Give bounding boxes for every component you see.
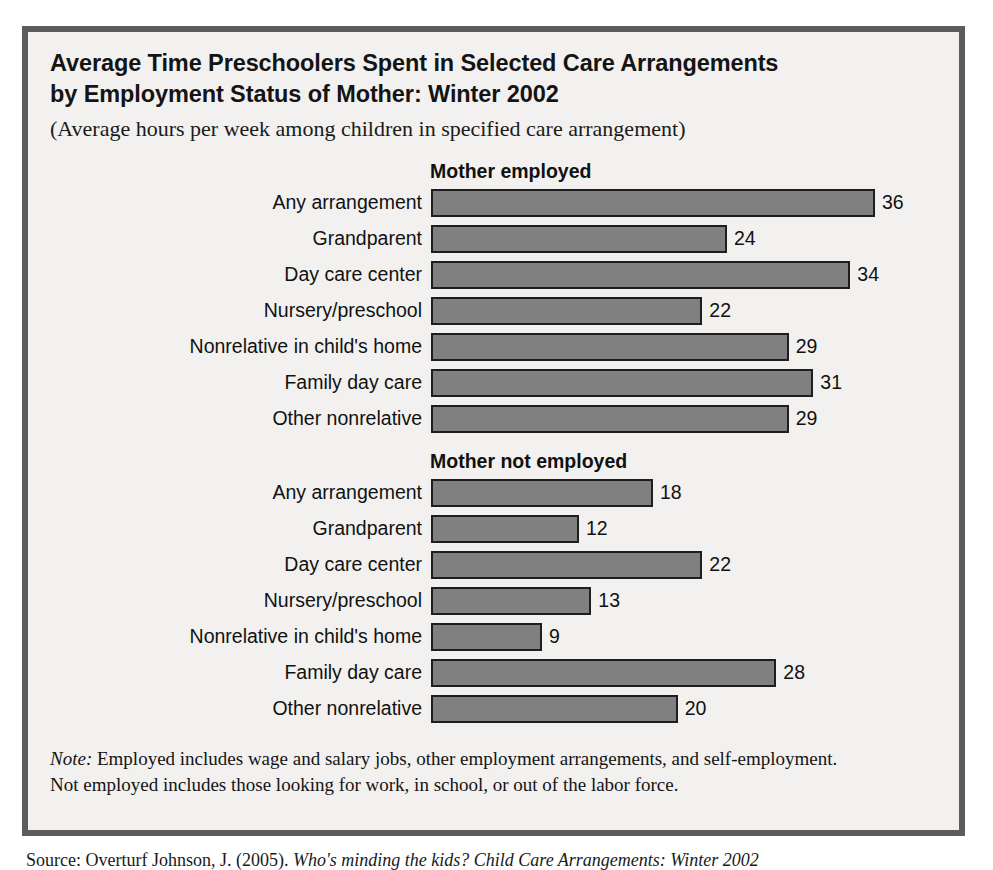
bar-value-label: 28 [783,663,805,683]
bar-value-label: 13 [598,591,620,611]
bar [431,551,702,579]
bar-value-label: 29 [796,337,818,357]
source-label: Source: Overturf Johnson, J. (2005). [26,850,293,870]
bar-row: Any arrangement18 [50,475,937,511]
bar-value-label: 20 [685,699,707,719]
source-caption: Source: Overturf Johnson, J. (2005). Who… [26,849,966,870]
bar-value-label: 34 [857,265,879,285]
bar-value-label: 24 [734,229,756,249]
bar [431,659,776,687]
bar-row: Other nonrelative29 [50,401,937,437]
bar [431,587,591,615]
bar-category-label: Nonrelative in child's home [50,627,431,647]
bar-row: Nonrelative in child's home9 [50,619,937,655]
chart-plot-area: Mother employedAny arrangement36Grandpar… [50,158,937,727]
bar-row: Family day care28 [50,655,937,691]
bar-category-label: Nonrelative in child's home [50,337,431,357]
note-label: Note: [50,748,92,769]
bar-track: 12 [431,511,937,547]
group-heading-1: Mother not employed [50,448,937,475]
chart-title: Average Time Preschoolers Spent in Selec… [50,48,937,110]
bar [431,479,653,507]
chart-title-line-1: Average Time Preschoolers Spent in Selec… [50,48,937,79]
bar [431,333,789,361]
bar-value-label: 31 [820,373,842,393]
bar-value-label: 12 [586,519,608,539]
bar-track: 22 [431,293,937,329]
bar-category-label: Day care center [50,555,431,575]
bar [431,369,813,397]
bar [431,623,542,651]
bar-track: 9 [431,619,937,655]
bar-value-label: 9 [549,627,560,647]
bar-row: Other nonrelative20 [50,691,937,727]
bar [431,261,850,289]
bar-track: 31 [431,365,937,401]
bar-row: Nonrelative in child's home29 [50,329,937,365]
bar-track: 18 [431,475,937,511]
bar [431,189,875,217]
bar-category-label: Day care center [50,265,431,285]
bar-category-label: Family day care [50,663,431,683]
bar-row: Nursery/preschool22 [50,293,937,329]
bar-track: 22 [431,547,937,583]
bar-category-label: Any arrangement [50,483,431,503]
bar-track: 29 [431,329,937,365]
group-heading-0: Mother employed [50,158,937,185]
bar-row: Day care center22 [50,547,937,583]
bar-category-label: Nursery/preschool [50,591,431,611]
chart-note: Note: Employed includes wage and salary … [50,746,937,798]
bar-track: 29 [431,401,937,437]
bar [431,515,579,543]
bar-track: 24 [431,221,937,257]
bar-category-label: Any arrangement [50,193,431,213]
bar-category-label: Grandparent [50,519,431,539]
source-title: Who's minding the kids? Child Care Arran… [293,850,759,870]
note-line-2: Not employed includes those looking for … [50,772,937,798]
bar-value-label: 22 [709,555,731,575]
chart-title-line-2: by Employment Status of Mother: Winter 2… [50,79,937,110]
figure-panel: Average Time Preschoolers Spent in Selec… [22,26,965,836]
bar-row: Grandparent24 [50,221,937,257]
bar-track: 20 [431,691,937,727]
bar-row: Grandparent12 [50,511,937,547]
bar-category-label: Grandparent [50,229,431,249]
chart-subtitle: (Average hours per week among children i… [50,114,937,144]
bar [431,405,789,433]
bar-row: Any arrangement36 [50,185,937,221]
bar-category-label: Nursery/preschool [50,301,431,321]
bar-row: Day care center34 [50,257,937,293]
bar-value-label: 36 [882,193,904,213]
bar-category-label: Other nonrelative [50,699,431,719]
bar [431,695,678,723]
bar-track: 34 [431,257,937,293]
bar-value-label: 22 [709,301,731,321]
bar-value-label: 18 [660,483,682,503]
panel-inner: Average Time Preschoolers Spent in Selec… [28,32,959,830]
bar-track: 28 [431,655,937,691]
bar-category-label: Family day care [50,373,431,393]
bar [431,225,727,253]
bar-row: Nursery/preschool13 [50,583,937,619]
note-text-1: Employed includes wage and salary jobs, … [92,748,837,769]
bar-track: 13 [431,583,937,619]
note-line-1: Note: Employed includes wage and salary … [50,746,937,772]
bar-value-label: 29 [796,409,818,429]
bar-row: Family day care31 [50,365,937,401]
bar-track: 36 [431,185,937,221]
bar-category-label: Other nonrelative [50,409,431,429]
bar [431,297,702,325]
